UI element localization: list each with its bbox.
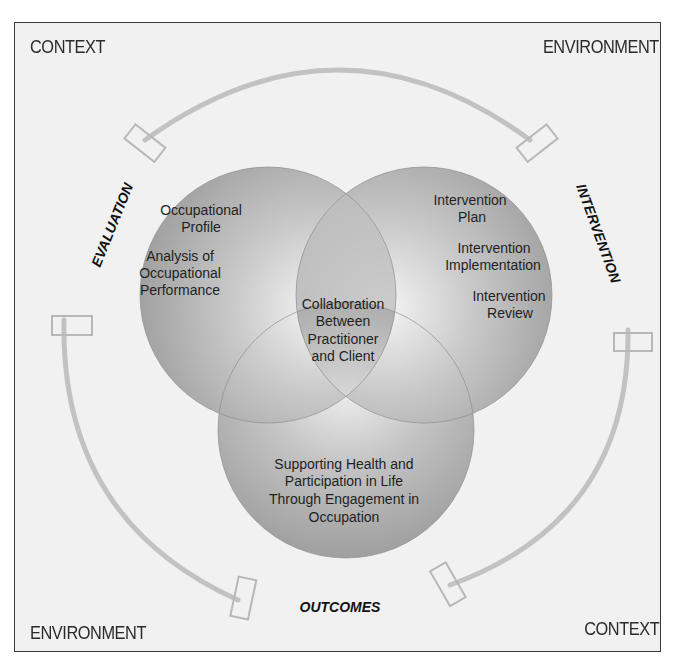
intervention-line: Review [487, 305, 534, 321]
outcomes-line: Participation in Life [285, 473, 404, 489]
outcomes-label: OUTCOMES [300, 599, 382, 615]
center-line: and Client [311, 348, 374, 364]
diagram-stage: CONTEXT ENVIRONMENT ENVIRONMENT CONTEXT [0, 0, 681, 666]
venn-diagram: EVALUATION INTERVENTION OUTCOMES Occupat… [0, 0, 681, 666]
arc-cap-left-top [52, 316, 92, 335]
evaluation-line: Performance [140, 282, 220, 298]
arc-cap-left-bottom [230, 577, 256, 620]
center-line: Collaboration [302, 296, 385, 312]
outcomes-line: Supporting Health and [274, 456, 413, 472]
intervention-line: Implementation [445, 257, 541, 273]
intervention-line: Intervention [472, 288, 545, 304]
center-line: Practitioner [308, 331, 379, 347]
evaluation-label: EVALUATION [88, 180, 136, 269]
evaluation-line: Profile [181, 219, 221, 235]
intervention-line: Intervention [457, 240, 530, 256]
arc-top [145, 70, 530, 140]
intervention-line: Plan [458, 209, 486, 225]
intervention-line: Intervention [433, 192, 506, 208]
evaluation-line: Analysis of [146, 248, 214, 264]
center-line: Between [316, 313, 370, 329]
outcomes-line: Occupation [309, 509, 380, 525]
evaluation-line: Occupational [160, 202, 242, 218]
outcomes-line: Through Engagement in [269, 491, 419, 507]
arc-cap-top-right [517, 124, 558, 162]
intervention-label: INTERVENTION [573, 182, 624, 286]
arc-cap-right-top [614, 333, 652, 351]
evaluation-line: Occupational [139, 265, 221, 281]
